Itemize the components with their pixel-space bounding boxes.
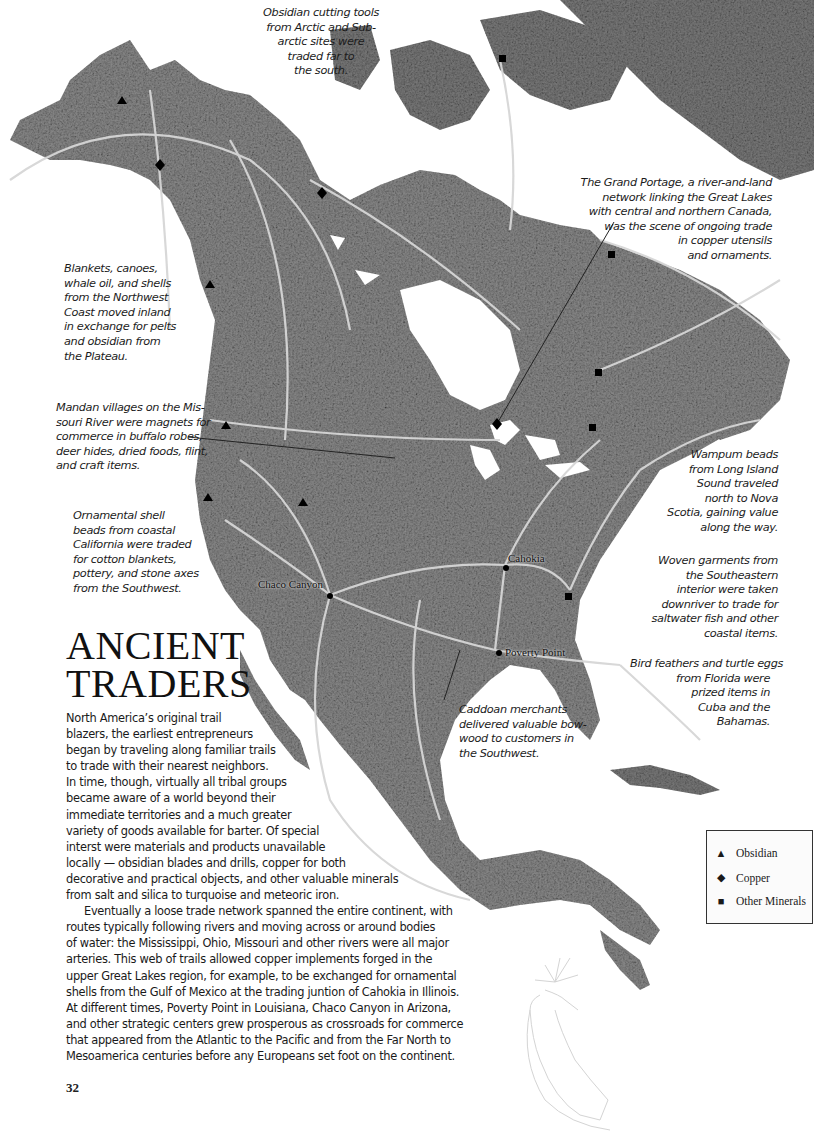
callout-caddoan: Caddoan merchants delivered valuable bow… [459,703,586,761]
legend-label: Obsidian [736,847,778,859]
map-legend: ▲ Obsidian ◆ Copper ■ Other Minerals [706,830,813,924]
cahokia-dot [503,565,509,571]
city-label-poverty-point: Poverty Point [505,646,565,658]
poverty-point-dot [496,650,502,656]
other-minerals-marker [589,424,596,431]
city-label-cahokia: Cahokia [508,552,545,564]
callout-wampum: Wampum beads from Long Island Sound trav… [660,448,778,536]
other-minerals-marker [595,369,602,376]
callout-mandan: Mandan villages on the Mis- souri River … [56,401,210,474]
callout-bird-feathers: Bird feathers and turtle eggs from Flori… [630,657,770,730]
legend-label: Other Minerals [736,895,806,907]
callout-obsidian-arctic: Obsidian cutting tools from Arctic and S… [246,6,396,79]
chaco-canyon-dot [327,593,333,599]
callout-grand-portage: The Grand Portage, a river-and-land netw… [560,176,772,264]
square-icon: ■ [715,895,727,907]
legend-label: Copper [736,872,770,884]
page-title: ANCIENT TRADERS [66,627,252,703]
other-minerals-marker [565,593,572,600]
city-label-chaco-canyon: Chaco Canyon [258,578,323,590]
callout-california-shell: Ornamental shell beads from coastal Cali… [73,509,199,597]
legend-item-other-minerals: ■ Other Minerals [715,895,806,907]
callout-northwest-coast: Blankets, canoes, whale oil, and shells … [64,262,176,364]
decorative-figure-illustration [527,958,610,1130]
other-minerals-marker [499,55,506,62]
legend-item-obsidian: ▲ Obsidian [715,847,778,859]
page-number: 32 [66,1080,79,1096]
body-text: North America’s original trail blazers, … [66,710,463,1064]
callout-woven-garments: Woven garments from the Southeastern int… [630,554,778,642]
triangle-icon: ▲ [715,847,727,859]
legend-item-copper: ◆ Copper [715,871,770,884]
diamond-icon: ◆ [715,871,727,884]
